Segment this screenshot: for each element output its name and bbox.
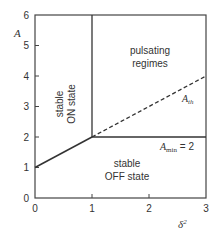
region-on-label-2: ON state: [66, 84, 77, 124]
region-off-label-1: stable: [114, 158, 141, 169]
y-tick-5: 5: [23, 40, 29, 51]
region-off-label-2: OFF state: [105, 171, 150, 182]
region-on-label-1: stable: [54, 90, 65, 117]
x-tick-0: 0: [32, 203, 38, 214]
y-tick-6: 6: [23, 10, 29, 21]
x-ticks: [92, 194, 149, 198]
ath-annotation: Ath: [181, 93, 194, 106]
region-pulsating-label-2: regimes: [132, 58, 168, 69]
y-tick-1: 1: [23, 162, 29, 173]
y-axis-label: A: [13, 27, 21, 39]
ath-dashed-line: [92, 76, 206, 137]
amin-annotation: Amin = 2: [159, 141, 194, 154]
x-tick-2: 2: [146, 203, 152, 214]
on-off-boundary-line: [35, 137, 92, 168]
x-tick-3: 3: [203, 203, 209, 214]
x-axis-label: δ2: [178, 218, 187, 230]
y-tick-3: 3: [23, 101, 29, 112]
phase-diagram: 0 1 2 3 4 5 6 0 1 2 3 A δ2 stable ON sta…: [0, 0, 219, 241]
x-tick-1: 1: [89, 203, 95, 214]
y-tick-2: 2: [23, 132, 29, 143]
y-tick-0: 0: [23, 193, 29, 204]
region-pulsating-label-1: pulsating: [130, 45, 170, 56]
y-tick-4: 4: [23, 71, 29, 82]
